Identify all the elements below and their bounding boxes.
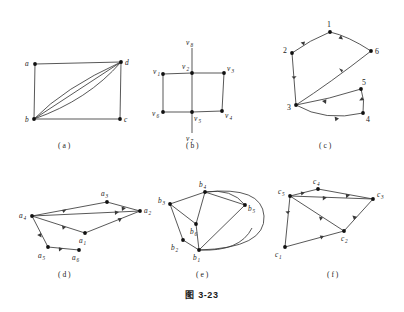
edge-v3-v4 bbox=[222, 73, 224, 111]
arrowhead-2-3 bbox=[292, 76, 297, 79]
node-label-b6-base: b bbox=[190, 227, 194, 236]
node-label-c5-sub: 5 bbox=[282, 191, 285, 197]
node-label-a3-base: a bbox=[101, 189, 105, 198]
node-label-c1: c 1 bbox=[275, 250, 282, 260]
edge-a-b bbox=[34, 64, 35, 119]
node-label-a1-base: a bbox=[79, 236, 83, 245]
node-c-6 bbox=[369, 49, 373, 53]
node-label-v3-base: v bbox=[227, 64, 231, 73]
node-v2 bbox=[190, 71, 194, 75]
node-label-v2-sub: 2 bbox=[187, 66, 190, 72]
node-label-v1: v 1 bbox=[153, 67, 161, 77]
edge-v5-v4 bbox=[192, 111, 222, 112]
edge-d-a4-a2 bbox=[32, 211, 140, 216]
node-label-c-4: 4 bbox=[366, 115, 370, 124]
node-label-v6-base: v bbox=[152, 109, 156, 118]
node-c-5 bbox=[359, 87, 363, 91]
node-label-b3-base: b bbox=[158, 196, 162, 205]
node-b4 bbox=[203, 190, 207, 194]
edge-f-c1-c2 bbox=[285, 231, 344, 247]
arrowhead-a4-a5 bbox=[37, 233, 41, 237]
edge-d-a5-a6 bbox=[48, 247, 79, 250]
node-label-b5: b 5 bbox=[248, 204, 256, 214]
node-label-a6-sub: 6 bbox=[77, 257, 80, 263]
node-a3 bbox=[105, 200, 109, 204]
node-c bbox=[118, 117, 122, 121]
node-label-d: d bbox=[125, 58, 129, 67]
edge-f-c3-c2 bbox=[344, 199, 373, 231]
node-c5 bbox=[288, 194, 292, 198]
node-v3 bbox=[222, 71, 226, 75]
edge-e-b4-b6 bbox=[196, 192, 205, 224]
edge-e-b6-b1 bbox=[196, 224, 199, 250]
node-label-b6-sub: 6 bbox=[195, 231, 198, 237]
arrowhead-3-6 bbox=[339, 68, 343, 72]
edge-c-1-2 bbox=[292, 32, 330, 53]
panel-a: a d b c ( a ) bbox=[25, 58, 129, 150]
node-label-c1-sub: 1 bbox=[279, 254, 282, 260]
node-label-a6-base: a bbox=[72, 253, 76, 262]
edge-f-c5-c2 bbox=[290, 196, 344, 231]
node-b3 bbox=[168, 202, 172, 206]
node-label-v8-sub: 8 bbox=[191, 42, 194, 48]
node-label-v4: v 4 bbox=[225, 111, 233, 121]
node-c4 bbox=[316, 187, 320, 191]
node-label-c-2: 2 bbox=[283, 46, 287, 55]
node-label-c-1: 1 bbox=[327, 20, 331, 29]
node-label-v8-base: v bbox=[186, 38, 190, 47]
edge-a-d bbox=[35, 62, 121, 64]
node-c-2 bbox=[290, 51, 294, 55]
node-label-b2-base: b bbox=[171, 243, 175, 252]
node-label-a2: a 2 bbox=[144, 206, 152, 216]
edge-c-3-4 bbox=[296, 105, 363, 116]
node-label-a5-sub: 5 bbox=[43, 255, 46, 261]
node-label-v1-base: v bbox=[153, 67, 157, 76]
node-label-v6: v 6 bbox=[152, 109, 160, 119]
node-label-v5-base: v bbox=[194, 114, 198, 123]
arrowhead-c5-c1 bbox=[285, 211, 290, 214]
node-label-a2-sub: 2 bbox=[149, 210, 152, 216]
node-label-a4: a 4 bbox=[19, 211, 27, 221]
arrowhead-a4-a2 bbox=[115, 211, 119, 216]
node-label-c4-sub: 4 bbox=[317, 181, 320, 187]
node-label-b1-sub: 1 bbox=[198, 257, 201, 263]
node-c3 bbox=[371, 197, 375, 201]
node-label-v4-base: v bbox=[225, 111, 229, 120]
node-a5 bbox=[46, 245, 50, 249]
node-b5 bbox=[243, 203, 247, 207]
edge-f-c5-c1 bbox=[285, 196, 290, 247]
edge-c-4-5 bbox=[361, 89, 364, 113]
node-v4 bbox=[220, 109, 224, 113]
panel-caption-f: ( f ) bbox=[327, 270, 339, 279]
panel-caption-b: ( b ) bbox=[186, 141, 199, 150]
node-b bbox=[32, 117, 36, 121]
node-label-a1: a 1 bbox=[79, 236, 87, 246]
node-label-b4: b 4 bbox=[199, 180, 207, 190]
node-a2 bbox=[138, 209, 142, 213]
node-c-3 bbox=[294, 103, 298, 107]
node-c-1 bbox=[328, 30, 332, 34]
edge-b-d-straight bbox=[34, 62, 121, 119]
edge-e-b2-b1 bbox=[183, 240, 199, 250]
node-label-b2-sub: 2 bbox=[176, 247, 179, 253]
node-label-c-6: 6 bbox=[375, 47, 379, 56]
node-label-c3-sub: 3 bbox=[381, 194, 384, 200]
edge-e-b1-b5-inner-arc bbox=[199, 228, 252, 250]
panel-f: c 1 c 2 c 3 c 4 c 5 ( f ) bbox=[275, 177, 384, 279]
panel-caption-d: ( d ) bbox=[58, 270, 71, 279]
node-c-4 bbox=[361, 111, 365, 115]
node-label-b3: b 3 bbox=[158, 196, 166, 206]
node-label-v8: v 8 bbox=[186, 38, 194, 48]
node-b2 bbox=[181, 238, 185, 242]
panel-b: v 1 v 2 v 3 v 4 v 5 v 6 bbox=[152, 38, 235, 150]
node-label-c2: c 2 bbox=[341, 234, 348, 244]
node-label-b4-sub: 4 bbox=[204, 184, 207, 190]
figure-caption: 图 3-23 bbox=[0, 288, 404, 301]
node-a1 bbox=[83, 231, 87, 235]
edge-d-a4-a1 bbox=[32, 216, 85, 233]
panel-c: 1 2 3 4 5 6 ( c ) bbox=[283, 20, 379, 150]
node-label-a5: a 5 bbox=[38, 251, 46, 261]
node-label-v2-base: v bbox=[182, 62, 186, 71]
node-label-a3: a 3 bbox=[101, 189, 109, 199]
edge-c-1-6 bbox=[330, 32, 371, 51]
